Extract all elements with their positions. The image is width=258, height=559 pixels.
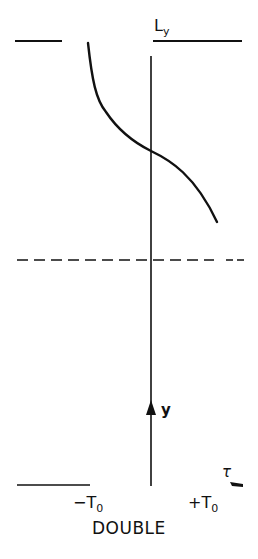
top-label-subscript: y <box>163 25 170 38</box>
s-curve <box>88 43 217 222</box>
top-label-main: L <box>154 16 163 35</box>
top-label: Ly <box>154 16 169 35</box>
neg-t0-label: −T0 <box>73 493 103 512</box>
tau-label: τ <box>222 463 231 481</box>
neg-t0-main: −T <box>73 493 96 512</box>
diagram-canvas <box>0 0 258 559</box>
pos-t0-subscript: 0 <box>211 502 218 515</box>
pos-t0-label: +T0 <box>188 493 218 512</box>
pos-t0-main: +T <box>188 493 211 512</box>
neg-t0-subscript: 0 <box>96 502 103 515</box>
tau-arrow-icon <box>230 482 243 487</box>
y-arrow-icon <box>146 400 156 415</box>
diagram-title: DOUBLE <box>92 518 166 538</box>
y-axis-label: y <box>161 401 171 419</box>
